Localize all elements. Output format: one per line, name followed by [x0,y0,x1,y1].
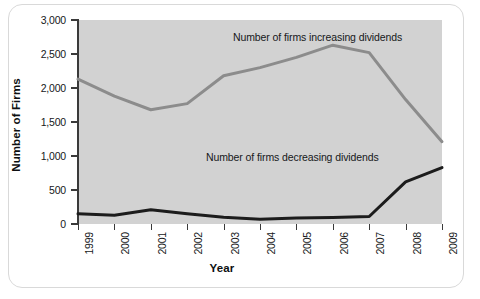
y-tick-mark [71,19,78,21]
plot-area [78,20,442,224]
x-tick-label: 2007 [374,232,386,255]
x-tick-label: 2003 [229,232,241,255]
x-tick-label: 2009 [447,232,459,255]
y-tick-label: 3,000 [41,14,66,26]
y-tick-label: 0 [60,218,66,230]
y-tick-mark [71,189,78,191]
y-tick-label: 500 [49,184,66,196]
x-tick-label: 2008 [411,232,423,255]
x-tick-mark [296,224,297,230]
x-tick-mark [151,224,152,230]
x-tick-mark [78,224,79,230]
x-axis-title-text: Year [209,262,234,274]
y-tick-mark [71,155,78,157]
x-tick-mark [114,224,115,230]
x-tick-mark [333,224,334,230]
x-tick-mark [187,224,188,230]
y-tick-mark [71,121,78,123]
y-tick-label: 1,000 [41,150,66,162]
y-tick-mark [71,223,78,225]
y-tick-label: 2,000 [41,82,66,94]
x-tick-mark [442,224,443,230]
y-tick-mark [71,87,78,89]
x-tick-label: 2000 [119,232,131,255]
x-tick-label: 1999 [83,232,95,255]
annotation-decreasing-dividends: Number of firms decreasing dividends [206,151,379,163]
y-tick-label: 1,500 [41,116,66,128]
x-axis-title: Year [0,262,480,274]
y-tick-label: 2,500 [41,48,66,60]
x-tick-mark [224,224,225,230]
chart-figure: 05001,0001,5002,0002,5003,000 1999200020… [0,0,480,299]
x-tick-label: 2005 [301,232,313,255]
x-tick-mark [260,224,261,230]
x-tick-label: 2002 [192,232,204,255]
y-tick-mark [71,53,78,55]
x-tick-mark [406,224,407,230]
annotation-increasing-dividends: Number of firms increasing dividends [233,31,402,43]
x-tick-label: 2004 [265,232,277,255]
x-tick-label: 2006 [338,232,350,255]
y-axis-title: Number of Firms [10,78,22,172]
x-tick-mark [369,224,370,230]
x-tick-label: 2001 [156,232,168,255]
